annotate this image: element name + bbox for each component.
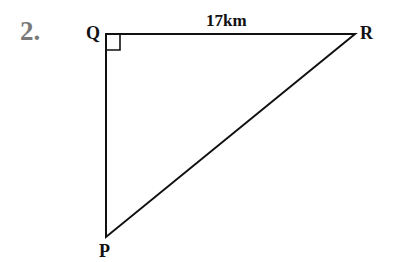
side-label-qr: 17km	[206, 11, 247, 31]
triangle-pqr	[106, 34, 355, 237]
triangle-diagram	[0, 0, 396, 262]
vertex-label-p: P	[99, 241, 110, 262]
right-angle-marker	[106, 34, 120, 50]
vertex-label-q: Q	[86, 23, 100, 44]
vertex-label-r: R	[360, 23, 373, 44]
